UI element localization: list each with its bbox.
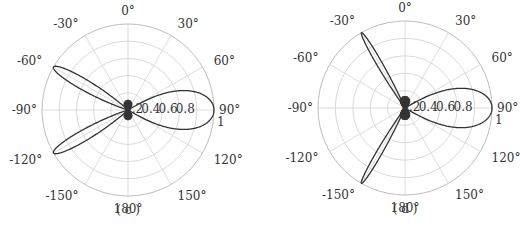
angle-tick-label: -90° bbox=[288, 101, 313, 115]
angle-tick-label: 30° bbox=[178, 17, 199, 31]
angle-tick-label: 60° bbox=[214, 54, 235, 68]
angle-tick-label: -150° bbox=[46, 189, 79, 203]
angle-tick-label: -60° bbox=[17, 54, 42, 68]
grid-spoke bbox=[362, 33, 406, 108]
angle-tick-label: 60° bbox=[492, 51, 513, 65]
caption-c: ( c ) bbox=[116, 203, 140, 217]
angle-tick-label: 30° bbox=[455, 14, 476, 28]
radial-tick-label: 1 bbox=[217, 115, 225, 129]
grid-spoke bbox=[330, 65, 405, 109]
angle-tick-label: 150° bbox=[178, 189, 207, 203]
grid-spoke bbox=[54, 110, 128, 153]
angle-tick-label: -150° bbox=[322, 188, 355, 202]
angle-tick-label: -30° bbox=[330, 14, 355, 28]
angle-tick-label: 0° bbox=[398, 1, 412, 15]
polar-figure: 0°30°60°90°120°150°180°-150°-120°-90°-60… bbox=[0, 0, 520, 230]
radial-tick-label: 0.8 bbox=[454, 100, 473, 114]
grid-spoke bbox=[85, 36, 128, 110]
grid-spoke bbox=[85, 110, 128, 184]
angle-tick-label: 120° bbox=[492, 151, 520, 165]
angle-tick-label: -120° bbox=[285, 151, 318, 165]
radial-tick-label: 0.8 bbox=[176, 102, 195, 116]
angle-tick-label: -90° bbox=[12, 103, 37, 117]
radial-tick-label: 0.6 bbox=[436, 100, 455, 114]
angle-tick-label: 150° bbox=[455, 188, 484, 202]
polar-plot-d: 0°30°60°90°120°150°180°-150°-120°-90°-60… bbox=[285, 1, 520, 215]
grid-spoke bbox=[330, 108, 405, 152]
caption-d: ( d ) bbox=[393, 202, 418, 216]
angle-tick-label: 0° bbox=[121, 4, 135, 18]
grid-spoke bbox=[362, 108, 406, 183]
radial-tick-label: 1 bbox=[495, 113, 503, 127]
angle-tick-label: -30° bbox=[53, 17, 78, 31]
grid-spoke bbox=[54, 67, 128, 110]
angle-tick-label: 120° bbox=[214, 153, 243, 167]
polar-plot-c: 0°30°60°90°120°150°180°-150°-120°-90°-60… bbox=[9, 4, 242, 216]
angle-tick-label: -60° bbox=[293, 51, 318, 65]
radial-tick-label: 0.2 bbox=[401, 100, 420, 114]
angle-tick-label: -120° bbox=[9, 153, 42, 167]
